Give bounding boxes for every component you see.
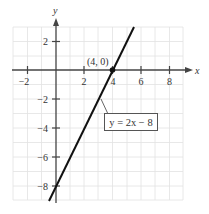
- y-axis-arrow-icon: [53, 18, 59, 26]
- equation-label-box: y = 2x − 8: [104, 113, 158, 131]
- y-tick-label: −8: [37, 181, 48, 192]
- x-tick-label: 4: [111, 76, 116, 87]
- callout-pointer: [101, 99, 113, 114]
- coordinate-plane: −2 2 4 6 8 x 2 −2 −4 −6 −8 y (4, 0): [0, 0, 209, 214]
- y-tick-label: −6: [37, 152, 48, 163]
- y-tick-label: 2: [43, 36, 48, 47]
- x-tick-label: 6: [139, 76, 144, 87]
- x-tick-label: 8: [167, 76, 172, 87]
- x-tick-label: 2: [82, 76, 87, 87]
- x-axis-label: x: [194, 65, 200, 76]
- y-tick-label: −2: [37, 94, 48, 105]
- x-axis-arrow-icon: [185, 67, 193, 73]
- y-axis-label: y: [52, 5, 58, 16]
- x-intercept-point: [110, 67, 116, 73]
- x-tick-label: −2: [19, 76, 30, 87]
- y-tick-label: −4: [37, 123, 48, 134]
- equation-text: y = 2x − 8: [109, 117, 152, 128]
- y-axis: 2 −2 −4 −6 −8 y: [37, 5, 60, 203]
- point-label: (4, 0): [87, 56, 109, 68]
